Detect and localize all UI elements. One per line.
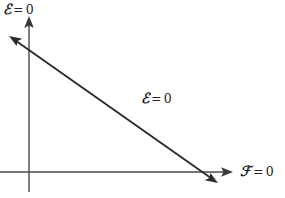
x-plane-equation-label: ℰ=0 [3,2,34,17]
x-plane-value: 0 [26,2,34,17]
script-y-symbol: ℱ [240,163,252,179]
y-plane-value: 0 [266,164,274,179]
y-plane-equation-label: ℱ=0 [240,164,274,179]
script-z-symbol: ℰ [141,90,150,106]
z-plane-equation-label: ℰ=0 [141,91,172,106]
diagonal-line-segment [14,40,213,180]
z-plane-relation-sign: = [150,92,163,106]
vertical-axis [24,16,34,192]
z-plane-value: 0 [164,91,172,106]
figure-canvas: ℰ=0 ℰ=0 ℱ=0 [0,0,285,198]
x-plane-relation-sign: = [12,3,25,17]
y-plane-relation-sign: = [252,165,265,179]
script-x-symbol: ℰ [3,1,12,17]
diagonal-plane-line [9,36,218,183]
